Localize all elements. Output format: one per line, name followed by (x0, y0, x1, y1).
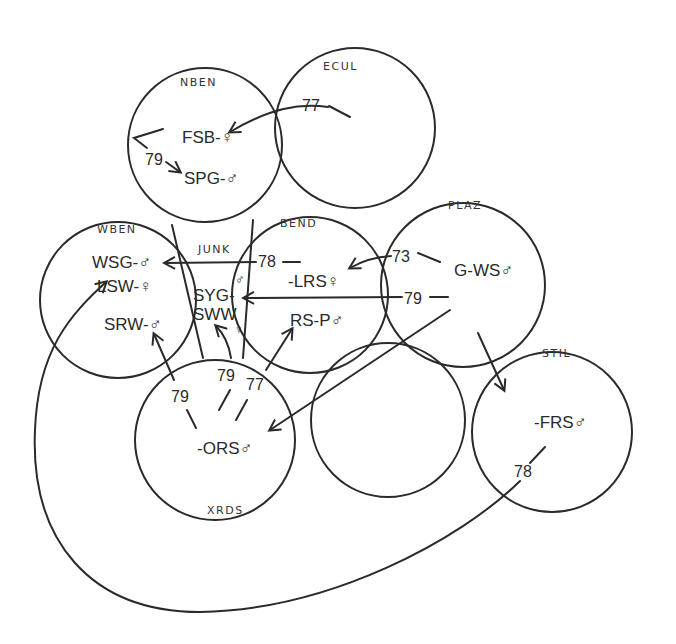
arrow-tail (418, 253, 440, 262)
arrow-xrds-to-rsp (266, 329, 292, 370)
region-label-ecul: ECUL (323, 60, 358, 73)
year-label: 73 (392, 248, 410, 265)
region-label-nben: NBEN (180, 76, 217, 89)
region-label-xrds: XRDS (207, 504, 244, 517)
region-wben-circle (40, 222, 196, 378)
arrow-tail (187, 410, 196, 428)
region-label-bend: BEND (280, 217, 317, 230)
arrow-nben-to-spg (166, 162, 180, 172)
year-label: 79 (171, 388, 189, 405)
node-lsw: LSW-♀ (97, 277, 152, 296)
year-label: 79 (404, 290, 422, 307)
node-syg-sex: ♂ (235, 272, 245, 287)
region-plaz-circle (381, 203, 545, 367)
node-sww: SWW (193, 305, 236, 324)
node-wsg: WSG-♂ (92, 253, 151, 272)
node-spg: SPG-♂ (184, 169, 238, 188)
node-lrs: -LRS♀ (288, 272, 339, 291)
region-label-stil: STIL (542, 347, 571, 360)
arrow-tail (219, 390, 230, 410)
year-label: 78 (514, 463, 532, 480)
arrow-xrds-to-sww (216, 326, 231, 358)
node-syg: SYG- (193, 286, 235, 305)
arrow-plaz-to-syg (244, 297, 402, 298)
node-fsb: FSB-♀ (182, 128, 233, 147)
region-stil-circle (472, 352, 632, 512)
arrow-tail (329, 106, 350, 117)
node-sww-sex: ♀ (234, 322, 244, 337)
year-label: 78 (258, 253, 276, 270)
region-bend-circle (232, 217, 388, 373)
region-unnamed-circle (311, 343, 465, 497)
territory-diagram: NBEN ECUL WBEN JUNK BEND PLAZ XRDS STIL … (0, 0, 676, 644)
node-ors: -ORS♂ (197, 439, 252, 458)
node-frs: -FRS♂ (534, 413, 586, 432)
year-label: 77 (246, 376, 264, 393)
arrow-tail (530, 447, 545, 463)
node-gws: G-WS♂ (454, 261, 513, 280)
arrow-tail-bend (134, 129, 163, 148)
arrow-bend-to-wsg (165, 262, 256, 263)
region-label-junk: JUNK (197, 243, 231, 256)
node-srw: SRW-♂ (104, 315, 161, 334)
region-label-wben: WBEN (97, 223, 137, 236)
arrow-tail (236, 400, 247, 420)
region-label-plaz: PLAZ (448, 199, 482, 212)
node-rsp: RS-P♂ (290, 311, 343, 330)
junk-right-edge (243, 220, 253, 358)
year-label: 79 (217, 367, 235, 384)
year-label: 79 (145, 151, 163, 168)
